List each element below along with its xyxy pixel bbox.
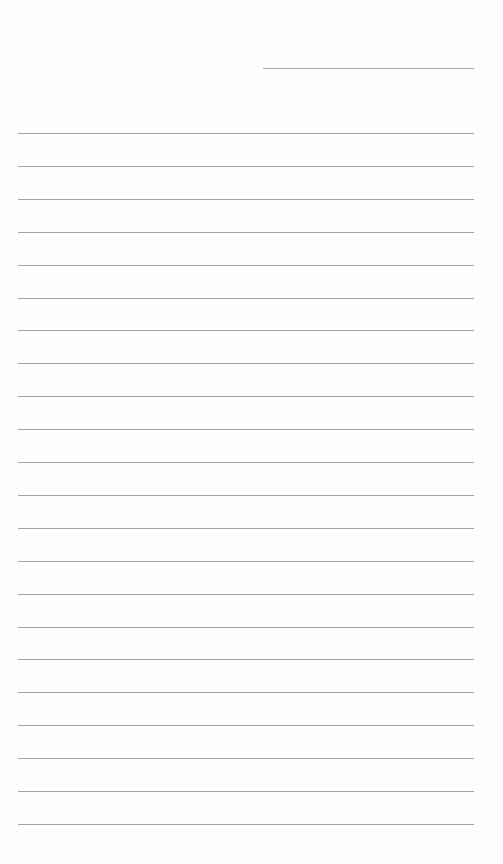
lined-paper-page — [0, 0, 503, 864]
ruled-line — [18, 396, 474, 397]
ruled-line — [18, 791, 474, 792]
ruled-line — [18, 330, 474, 331]
ruled-line — [18, 824, 474, 825]
ruled-line — [18, 166, 474, 167]
ruled-line — [18, 528, 474, 529]
ruled-line — [18, 725, 474, 726]
ruled-line — [18, 133, 474, 134]
ruled-line — [18, 363, 474, 364]
ruled-line — [18, 495, 474, 496]
ruled-line — [18, 462, 474, 463]
ruled-line — [18, 561, 474, 562]
ruled-line — [18, 265, 474, 266]
ruled-line — [18, 659, 474, 660]
ruled-line — [18, 594, 474, 595]
ruled-line — [18, 758, 474, 759]
ruled-line — [18, 232, 474, 233]
ruled-line — [18, 199, 474, 200]
header-date-line — [263, 68, 474, 69]
ruled-line — [18, 692, 474, 693]
ruled-line — [18, 298, 474, 299]
ruled-line — [18, 627, 474, 628]
ruled-line — [18, 429, 474, 430]
